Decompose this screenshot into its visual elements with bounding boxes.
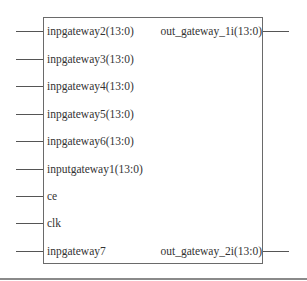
input-wire-inpgateway3: [16, 59, 43, 60]
input-wire-inpgateway5: [16, 114, 43, 115]
port-label-inpgateway5: inpgateway5(13:0): [47, 107, 134, 121]
port-label-clk: clk: [47, 216, 61, 230]
port-label-out-gateway-2i: out_gateway_2i(13:0): [160, 244, 262, 258]
input-wire-inpgateway4: [16, 86, 43, 87]
output-wire-out-gateway-2i: [263, 251, 289, 252]
port-label-inpgateway3: inpgateway3(13:0): [47, 52, 134, 66]
port-label-inpgateway2: inpgateway2(13:0): [47, 24, 134, 38]
port-label-inpgateway7: inpgateway7: [47, 244, 106, 258]
bottom-divider: [0, 278, 307, 280]
port-label-ce: ce: [47, 189, 57, 203]
input-wire-inpgateway6: [16, 141, 43, 142]
input-wire-inpgateway7: [16, 251, 43, 252]
input-wire-ce: [16, 196, 43, 197]
port-label-inpgateway6: inpgateway6(13:0): [47, 134, 134, 148]
port-label-inpgateway4: inpgateway4(13:0): [47, 79, 134, 93]
input-wire-inpgateway2: [16, 31, 43, 32]
port-label-inputgateway1: inputgateway1(13:0): [47, 162, 143, 176]
port-label-out-gateway-1i: out_gateway_1i(13:0): [160, 24, 262, 38]
input-wire-inputgateway1: [16, 169, 43, 170]
input-wire-clk: [16, 223, 43, 224]
output-wire-out-gateway-1i: [263, 31, 289, 32]
